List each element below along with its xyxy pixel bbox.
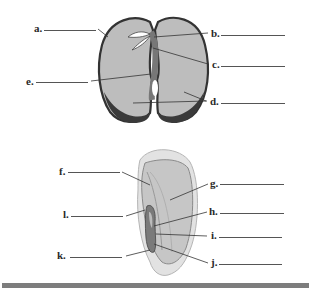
bean-seed-illustration: [91, 18, 208, 123]
answer-line-l[interactable]: [71, 216, 123, 217]
answer-line-f[interactable]: [68, 172, 120, 173]
label-j: j.: [211, 257, 217, 268]
answer-line-e[interactable]: [36, 82, 88, 83]
label-h: h.: [209, 206, 218, 217]
label-i: i.: [211, 230, 217, 241]
label-k: k.: [57, 250, 66, 261]
label-c: c.: [212, 59, 220, 70]
answer-line-j[interactable]: [219, 264, 282, 265]
answer-line-d[interactable]: [221, 103, 285, 104]
answer-line-b[interactable]: [221, 35, 285, 36]
answer-line-g[interactable]: [220, 184, 284, 185]
label-e: e.: [26, 76, 34, 87]
label-a: a.: [34, 23, 42, 34]
label-f: f.: [59, 166, 65, 177]
label-b: b.: [211, 28, 220, 39]
footer-divider-bar: [2, 283, 309, 288]
answer-line-i[interactable]: [219, 237, 282, 238]
label-l: l.: [63, 209, 69, 220]
label-g: g.: [210, 178, 218, 189]
answer-line-h[interactable]: [220, 213, 284, 214]
corn-kernel-illustration: [122, 150, 208, 276]
diagram-artwork: [0, 0, 311, 298]
answer-line-k[interactable]: [70, 257, 122, 258]
answer-line-a[interactable]: [44, 30, 96, 31]
answer-line-c[interactable]: [221, 66, 285, 67]
label-d: d.: [210, 96, 219, 107]
